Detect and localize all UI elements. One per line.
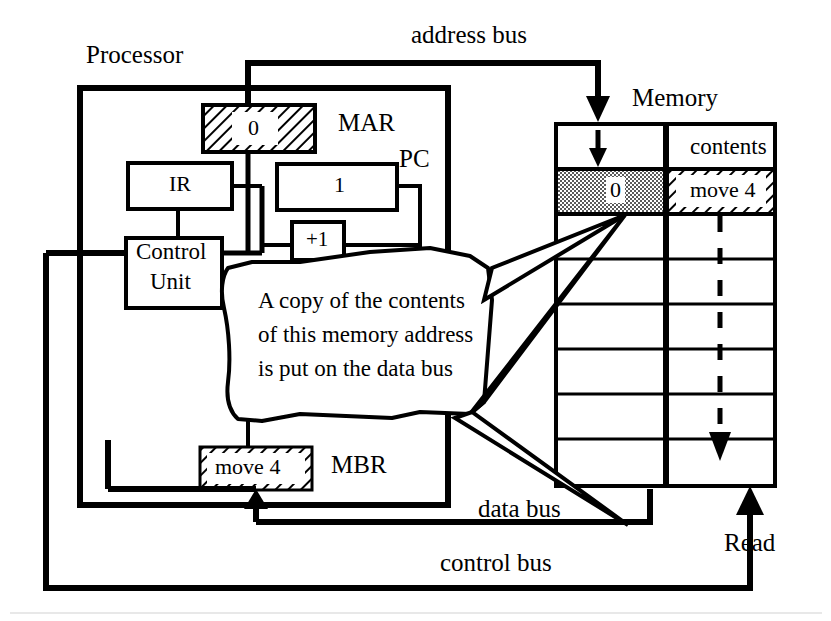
- callout-line-2: of this memory address: [258, 322, 473, 348]
- callout-line-3: is put on the data bus: [258, 356, 453, 382]
- read-signal-label: Read: [724, 530, 775, 556]
- diagram-canvas: Processor address bus Memory 0 MAR IR 1 …: [0, 0, 831, 621]
- memory-address-value: 0: [606, 177, 625, 203]
- processor-label: Processor: [86, 42, 183, 68]
- page-bottom-divider: [10, 612, 822, 614]
- mar-label: MAR: [338, 110, 395, 136]
- data-bus-label: data bus: [478, 496, 561, 522]
- increment-label: +1: [302, 227, 332, 252]
- address-bus-label: address bus: [411, 22, 527, 48]
- mar-value: 0: [244, 115, 263, 141]
- memory-contents-value: move 4: [686, 177, 759, 203]
- control-bus-label: control bus: [440, 550, 552, 576]
- control-unit-label-line2: Unit: [150, 270, 191, 294]
- memory-label: Memory: [632, 85, 718, 111]
- ir-label: IR: [165, 171, 195, 197]
- callout-line-1: A copy of the contents: [258, 288, 465, 314]
- pc-value: 1: [330, 172, 349, 198]
- control-unit-label-line1: Control: [136, 240, 206, 264]
- pc-label: PC: [399, 146, 430, 172]
- memory-contents-header: contents: [690, 135, 767, 159]
- mbr-value: move 4: [211, 454, 284, 480]
- mbr-label: MBR: [331, 452, 387, 478]
